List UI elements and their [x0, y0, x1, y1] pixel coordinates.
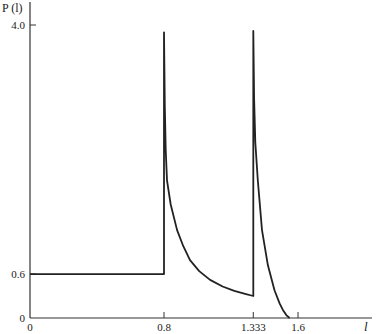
- y-axis-label: P (l): [2, 1, 23, 15]
- series-group: [30, 31, 290, 318]
- chart: P (l) l 00.81.3331.6 00.64.0: [0, 0, 376, 334]
- y-tick-label: 0: [20, 312, 26, 324]
- x-tick-label: 1.6: [291, 321, 305, 333]
- y-tick-label: 4.0: [11, 19, 25, 31]
- y-tick-label: 0.6: [11, 268, 25, 280]
- y-ticks: 00.64.0: [11, 19, 36, 324]
- x-ticks: 00.81.3331.6: [27, 312, 305, 333]
- x-axis-label: l: [364, 319, 368, 334]
- x-tick-label: 0: [27, 321, 33, 333]
- x-tick-label: 0.8: [157, 321, 171, 333]
- x-tick-label: 1.333: [241, 321, 266, 333]
- series-line-p-of-l: [30, 31, 290, 318]
